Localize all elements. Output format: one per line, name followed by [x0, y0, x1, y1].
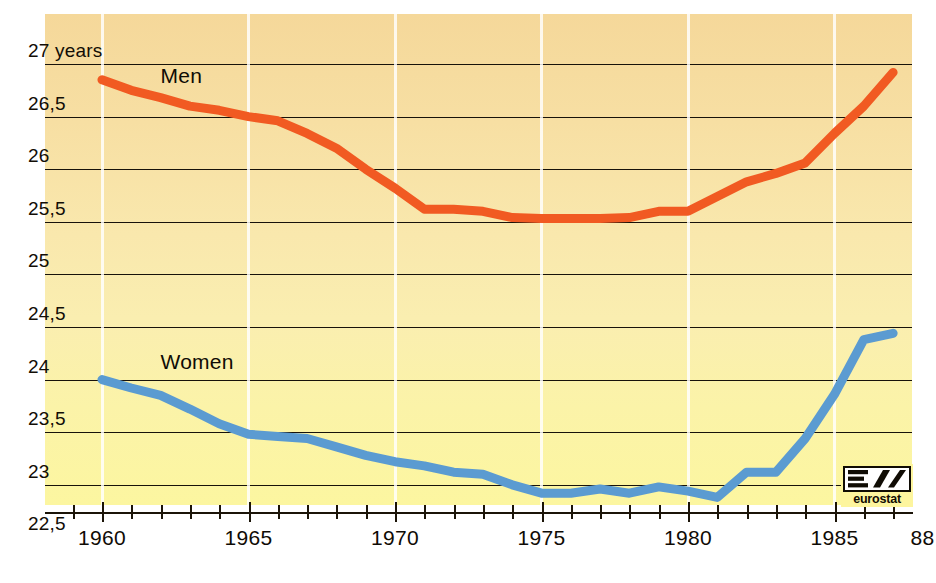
x-tick-label-1980: 1980: [664, 526, 712, 550]
x-tick-1972: [454, 505, 456, 519]
x-tick-1987: [893, 505, 895, 519]
x-axis-line: [45, 512, 913, 514]
series-label-women: Women: [161, 350, 234, 374]
x-tick-label-1965: 1965: [225, 526, 273, 550]
x-tick-1969: [366, 505, 368, 519]
x-tick-1970: [395, 502, 397, 522]
x-tick-1984: [805, 505, 807, 519]
x-tick-1965: [249, 502, 251, 522]
x-tick-1968: [336, 505, 338, 519]
x-tick-1974: [512, 505, 514, 519]
life-expectancy-line-chart: 27 years26,52625,52524,52423,52322,5 196…: [0, 0, 936, 583]
x-tick-label-1960: 1960: [78, 526, 126, 550]
x-tick-1983: [776, 505, 778, 519]
x-tick-label-1975: 1975: [518, 526, 566, 550]
x-tick-1980: [688, 502, 690, 522]
x-tick-1975: [542, 502, 544, 522]
eurostat-logo: eurostat: [841, 464, 913, 507]
x-tick-1985: [835, 502, 837, 522]
series-line-men: [102, 72, 893, 218]
y-tick-label-25: 25: [28, 250, 50, 272]
x-tick-1967: [307, 505, 309, 519]
x-tick-1976: [571, 505, 573, 519]
x-tick-label-1985: 1985: [811, 526, 859, 550]
series-label-men: Men: [161, 64, 202, 88]
x-tick-1986: [864, 505, 866, 519]
x-tick-1973: [483, 505, 485, 519]
x-tick-1961: [131, 505, 133, 519]
y-tick-label-22-5: 22,5: [28, 513, 66, 535]
x-tick-1959: [73, 505, 75, 519]
x-tick-label-1988: 88: [910, 526, 934, 550]
y-tick-label-23-5: 23,5: [28, 408, 66, 430]
x-tick-1964: [219, 505, 221, 519]
y-tick-label-27: 27 years: [28, 40, 102, 62]
x-tick-1977: [600, 505, 602, 519]
x-tick-1979: [659, 505, 661, 519]
y-tick-label-24: 24: [28, 356, 50, 378]
eurostat-wordmark: eurostat: [843, 492, 911, 506]
x-tick-1971: [424, 505, 426, 519]
y-tick-label-24-5: 24,5: [28, 303, 66, 325]
x-tick-1960: [102, 502, 104, 522]
x-tick-1966: [278, 505, 280, 519]
x-tick-1978: [629, 505, 631, 519]
x-tick-1962: [161, 505, 163, 519]
y-tick-label-23: 23: [28, 461, 50, 483]
y-tick-label-25-5: 25,5: [28, 198, 66, 220]
y-tick-label-26: 26: [28, 145, 50, 167]
x-tick-1963: [190, 505, 192, 519]
x-tick-1982: [747, 505, 749, 519]
x-tick-1981: [717, 505, 719, 519]
eurostat-mark-icon: [843, 466, 911, 492]
y-tick-label-26-5: 26,5: [28, 93, 66, 115]
x-tick-label-1970: 1970: [371, 526, 419, 550]
